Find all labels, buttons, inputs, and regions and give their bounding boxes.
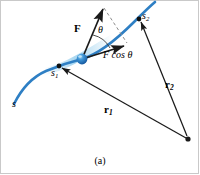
angle-label: θ (98, 25, 103, 35)
path-point-s2-dot (137, 17, 142, 22)
origin-point (185, 136, 190, 141)
force-component-label: F cos θ (103, 50, 132, 60)
path-start-label: s (12, 99, 16, 109)
path-point-s2-label: s2 (142, 11, 149, 23)
position-vector-r1-subscript: 1 (109, 108, 113, 117)
path-point-s2-subscript: 2 (146, 15, 149, 22)
force-vector-label: F (74, 23, 81, 34)
particle-highlight (78, 55, 82, 58)
figure-caption: (a) (0, 156, 200, 166)
path-point-s1-label: s1 (51, 68, 58, 80)
position-vector-r1-label: r1 (104, 104, 113, 117)
figure-container: F θ F cos θ s1 s2 s r1 r2 (a) (0, 0, 200, 175)
particle-marker (77, 54, 88, 65)
position-vector-r2-label: r2 (165, 79, 174, 92)
position-vector-r2-subscript: 2 (170, 83, 174, 92)
path-point-s1-subscript: 1 (55, 72, 58, 79)
position-vector-r2-arrow (141, 22, 187, 136)
